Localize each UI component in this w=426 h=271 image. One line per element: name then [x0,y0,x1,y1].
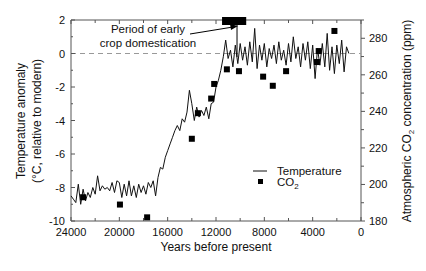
x-tick-label: 12000 [201,226,232,238]
y-tick-label: 0 [59,48,65,60]
y2-tick-label: 180 [369,215,387,227]
domestication-bar [222,17,246,25]
legend: Temperature CO2 [253,165,342,191]
x-tick-label: 16000 [152,226,183,238]
y2-axis-title: Atmospheric CO2 concentration (ppm) [400,20,416,223]
y2-tick-label: 220 [369,142,387,154]
y-tick-label: -6 [55,148,65,160]
co2-marker [208,96,214,102]
co2-marker [236,68,242,74]
temperature-series [71,28,349,204]
y2-tick-label: 200 [369,178,387,190]
co2-marker [211,81,217,87]
co2-marker [270,83,276,89]
annotation-line1: Period of early [111,23,185,35]
annotation-line2: crop domestication [100,37,197,49]
y-tick-label: -2 [55,81,65,93]
y2-tick-label: 260 [369,69,387,81]
y2-tick-label: 240 [369,105,387,117]
y-axis-co2: 280260240220200180 [361,20,387,227]
co2-marker [117,202,123,208]
svg-text:Temperature anomaly: Temperature anomaly [14,63,28,179]
co2-marker [224,66,230,72]
y2-tick-label: 280 [369,32,387,44]
y-tick-label: -10 [49,215,65,227]
co2-marker [195,110,201,116]
temperature-co2-chart: 24000200001600012000800040000 20-2-4-6-8… [0,0,426,271]
y-axis-title: Temperature anomaly (°C, relative to mod… [14,59,44,183]
co2-marker [283,68,289,74]
x-tick-label: 8000 [252,226,276,238]
co2-marker [314,59,320,65]
svg-text:(°C, relative to modern): (°C, relative to modern) [30,59,44,183]
co2-marker [189,136,195,142]
temperature-line [71,28,349,204]
x-tick-label: 0 [358,226,364,238]
x-tick-label: 20000 [104,226,135,238]
x-axis-title: Years before present [161,240,273,254]
y-tick-label: -8 [55,182,65,194]
co2-marker [316,48,322,54]
svg-text:Atmospheric CO2 concentration: Atmospheric CO2 concentration (ppm) [400,20,416,223]
y-tick-label: -4 [55,115,65,127]
co2-marker [144,214,150,220]
x-tick-label: 24000 [56,226,87,238]
x-tick-label: 4000 [300,226,324,238]
co2-marker [260,74,266,80]
legend-co2-label: CO2 [277,176,299,191]
co2-series [80,28,337,220]
co2-marker [331,28,337,34]
legend-square-swatch [258,179,263,184]
y-tick-label: 2 [59,14,65,26]
co2-marker [80,194,86,200]
annotation-arrow-line [190,27,233,34]
